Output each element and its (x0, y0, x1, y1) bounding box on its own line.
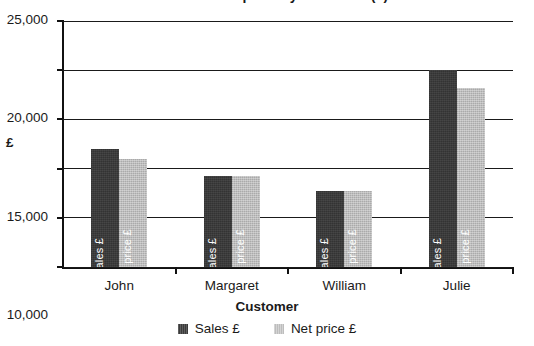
x-axis-tick (175, 267, 177, 274)
x-axis-label-margaret: Margaret (205, 279, 259, 293)
y-axis-tick: 20,000 (57, 69, 63, 71)
y-axis-tick-label: 20,000 (7, 112, 48, 126)
bar-john-sales[interactable]: Sales £ (91, 149, 119, 267)
bar-label: Net price £ (347, 229, 358, 267)
x-axis-tick (287, 267, 289, 274)
y-axis-line (62, 20, 64, 268)
y-axis-tick-label: 15,000 (7, 210, 48, 224)
legend-label: Net price £ (291, 322, 356, 336)
bar-label: Net price £ (122, 229, 133, 267)
x-axis-label-john: John (105, 279, 134, 293)
legend-swatch-icon (274, 324, 284, 334)
x-axis-label-william: William (323, 279, 367, 293)
y-axis-tick: 10,000 (57, 168, 63, 170)
plot-area: 05,00010,00015,00020,00025,000 Sales £Ne… (63, 21, 513, 267)
x-axis-title: Customer (0, 300, 534, 314)
y-axis-tick: 5,000 (57, 217, 63, 219)
bar-label: Net price £ (460, 229, 471, 267)
bar-label: Sales £ (94, 238, 105, 267)
y-axis-tick: 0 (57, 266, 63, 268)
x-axis-label-julie: Julie (443, 279, 471, 293)
y-axis-tick: 15,000 (57, 118, 63, 120)
bar-label: Net price £ (235, 229, 246, 267)
bar-william-net-price[interactable]: Net price £ (344, 191, 372, 267)
x-axis-tick (400, 267, 402, 274)
bar-label: Sales £ (319, 238, 330, 267)
x-axis-tick (512, 267, 514, 274)
chart-legend: Sales £Net price £ (0, 322, 534, 336)
legend-entry-net-price[interactable]: Net price £ (274, 322, 356, 336)
bar-john-net-price[interactable]: Net price £ (119, 159, 147, 267)
bar-julie-net-price[interactable]: Net price £ (457, 88, 485, 267)
bar-label: Sales £ (207, 238, 218, 267)
bar-margaret-net-price[interactable]: Net price £ (232, 176, 260, 267)
bar-julie-sales[interactable]: Sales £ (429, 70, 457, 267)
legend-entry-sales[interactable]: Sales £ (178, 322, 240, 336)
legend-swatch-icon (178, 324, 188, 334)
y-axis-title: £ (6, 136, 14, 150)
y-axis-tick-label: 25,000 (7, 13, 48, 27)
gridline (63, 21, 513, 22)
bar-label: Sales £ (432, 238, 443, 267)
legend-label: Sales £ (195, 322, 240, 336)
bar-william-sales[interactable]: Sales £ (316, 191, 344, 267)
y-axis-tick: 25,000 (57, 20, 63, 22)
bar-margaret-sales[interactable]: Sales £ (204, 176, 232, 267)
chart-title: Sales and net price by customer (£) (0, 0, 534, 4)
